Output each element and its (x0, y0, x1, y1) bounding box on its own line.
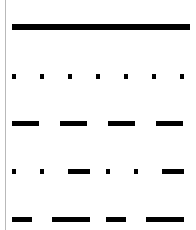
line-stroke-dashed (12, 121, 190, 126)
line-series-longshort (12, 217, 190, 222)
axis-spine (5, 0, 6, 230)
line-series-dotted (12, 74, 190, 79)
line-series-dashed (12, 121, 190, 126)
line-style-chart (0, 0, 196, 230)
line-series-solid (12, 24, 190, 30)
line-stroke-dashdot (12, 169, 190, 174)
line-stroke-longshort (12, 217, 190, 222)
line-stroke-solid (12, 24, 190, 30)
line-stroke-dotted (12, 74, 190, 79)
line-series-dashdot (12, 169, 190, 174)
